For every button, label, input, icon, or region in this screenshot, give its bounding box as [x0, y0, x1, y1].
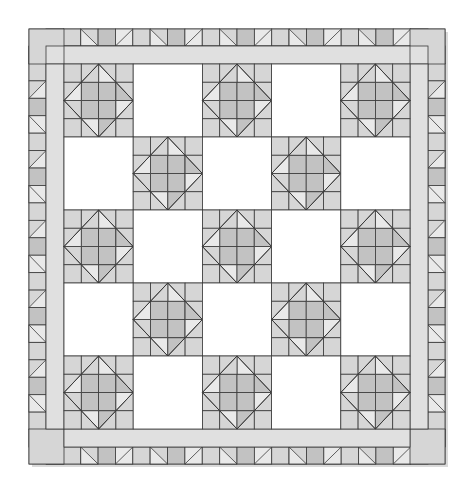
- left-border-segment: [29, 412, 46, 429]
- block-cell: [185, 283, 202, 301]
- plain-block: [64, 137, 133, 210]
- right-border-segment: [428, 238, 445, 255]
- block-cell: [116, 64, 133, 82]
- right-border-segment: [428, 203, 445, 220]
- left-border-segment: [29, 168, 46, 185]
- block-cell: [220, 228, 237, 246]
- bottom-border-segment: [272, 447, 289, 464]
- top-border-segment: [133, 29, 150, 46]
- block-cell: [116, 411, 133, 429]
- right-border-segment: [428, 133, 445, 150]
- block-cell: [81, 228, 98, 246]
- block-cell: [99, 247, 116, 265]
- bottom-border-segment: [63, 447, 80, 464]
- block-cell: [81, 393, 98, 411]
- block-cell: [237, 82, 254, 100]
- block-cell: [324, 137, 341, 155]
- block-cell: [202, 265, 219, 283]
- block-cell: [272, 137, 289, 155]
- block-cell: [220, 82, 237, 100]
- left-border-segment: [29, 98, 46, 115]
- block-cell: [168, 174, 185, 192]
- block-cell: [324, 192, 341, 210]
- block-cell: [202, 356, 219, 374]
- quilt-diagram: [0, 0, 474, 492]
- block-cell: [168, 155, 185, 173]
- block-cell: [202, 64, 219, 82]
- block-cell: [220, 374, 237, 392]
- block-cell: [358, 374, 375, 392]
- right-border-segment: [428, 412, 445, 429]
- plain-block: [64, 283, 133, 356]
- block-cell: [151, 174, 168, 192]
- block-cell: [81, 101, 98, 119]
- block-cell: [168, 301, 185, 319]
- sashing-right: [410, 64, 428, 429]
- block-cell: [99, 374, 116, 392]
- block-cell: [289, 320, 306, 338]
- block-cell: [306, 320, 323, 338]
- block-cell: [324, 283, 341, 301]
- right-border-segment: [428, 342, 445, 359]
- top-border-segment: [98, 29, 115, 46]
- bottom-border-segment: [376, 447, 393, 464]
- bottom-border-segment: [306, 447, 323, 464]
- block-cell: [202, 411, 219, 429]
- block-cell: [306, 301, 323, 319]
- block-cell: [341, 411, 358, 429]
- bottom-border-segment: [98, 447, 115, 464]
- block-cell: [133, 137, 150, 155]
- bottom-border-segment: [202, 447, 219, 464]
- plain-block: [202, 137, 271, 210]
- top-border-segment: [306, 29, 323, 46]
- block-cell: [64, 64, 81, 82]
- block-cell: [254, 356, 271, 374]
- plain-block: [133, 64, 202, 137]
- block-cell: [133, 283, 150, 301]
- top-border-segment: [376, 29, 393, 46]
- bottom-border-segment: [237, 447, 254, 464]
- plain-block: [133, 356, 202, 429]
- block-cell: [99, 228, 116, 246]
- plain-block: [341, 137, 410, 210]
- left-border-segment: [29, 238, 46, 255]
- block-cell: [393, 265, 410, 283]
- block-cell: [99, 393, 116, 411]
- block-cell: [375, 247, 392, 265]
- top-border-segment: [168, 29, 185, 46]
- top-border-segment: [272, 29, 289, 46]
- top-border-segment: [341, 29, 358, 46]
- block-cell: [151, 320, 168, 338]
- block-cell: [133, 192, 150, 210]
- block-cell: [272, 192, 289, 210]
- block-cell: [375, 393, 392, 411]
- block-cell: [116, 210, 133, 228]
- block-cell: [358, 393, 375, 411]
- block-cell: [116, 119, 133, 137]
- block-cell: [237, 247, 254, 265]
- block-cell: [358, 101, 375, 119]
- plain-block: [272, 64, 341, 137]
- block-cell: [324, 338, 341, 356]
- block-cell: [151, 301, 168, 319]
- plain-block: [272, 210, 341, 283]
- block-cell: [341, 119, 358, 137]
- block-cell: [185, 137, 202, 155]
- block-cell: [168, 320, 185, 338]
- block-cell: [64, 119, 81, 137]
- corner-square: [29, 429, 64, 464]
- block-cell: [254, 119, 271, 137]
- block-cell: [202, 119, 219, 137]
- right-border-segment: [428, 273, 445, 290]
- left-border-segment: [29, 377, 46, 394]
- block-cell: [237, 374, 254, 392]
- block-cell: [341, 64, 358, 82]
- left-border-segment: [29, 133, 46, 150]
- right-border-segment: [428, 308, 445, 325]
- block-cell: [64, 356, 81, 374]
- left-border-segment: [29, 203, 46, 220]
- block-cell: [341, 265, 358, 283]
- plain-block: [341, 283, 410, 356]
- block-cell: [220, 101, 237, 119]
- bottom-border-segment: [133, 447, 150, 464]
